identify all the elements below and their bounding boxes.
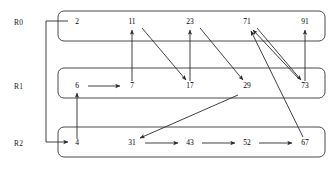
pointer-edges xyxy=(46,21,305,143)
row-label-r0: R0 xyxy=(14,18,23,27)
node-r2-n1: 31 xyxy=(128,138,136,147)
edge-11-to-17 xyxy=(142,28,186,80)
node-r2-n3: 52 xyxy=(243,138,251,147)
edge-67-to-71 xyxy=(251,31,303,137)
node-r1-n4: 73 xyxy=(301,81,309,90)
node-r2-n2: 43 xyxy=(186,138,194,147)
register-labels: R0R1R2 xyxy=(14,18,23,148)
node-r1-n3: 29 xyxy=(243,81,251,90)
edge-2-to-4 xyxy=(46,21,68,142)
node-r0-n2: 23 xyxy=(186,17,194,26)
edge-73-to-71 xyxy=(253,30,299,79)
node-r2-n0: 4 xyxy=(75,138,79,147)
node-r0-n3: 71 xyxy=(243,17,251,26)
edge-23-to-29 xyxy=(200,28,243,80)
diagram-canvas: R0R1R2 21123719167172973431435267 xyxy=(0,0,333,170)
diagram-svg: R0R1R2 21123719167172973431435267 xyxy=(0,0,333,170)
node-r2-n4: 67 xyxy=(301,138,309,147)
node-r1-n2: 17 xyxy=(186,81,194,90)
edge-29-to-31 xyxy=(140,95,238,138)
node-r0-n1: 11 xyxy=(128,17,135,26)
register-box-r0 xyxy=(58,11,325,41)
row-label-r2: R2 xyxy=(14,139,23,148)
edge-71-to-73 xyxy=(257,28,301,80)
node-r0-n4: 91 xyxy=(301,17,309,26)
node-r1-n0: 6 xyxy=(75,81,79,90)
node-r1-n1: 7 xyxy=(130,81,134,90)
row-label-r1: R1 xyxy=(14,82,23,91)
node-r0-n0: 2 xyxy=(75,17,79,26)
